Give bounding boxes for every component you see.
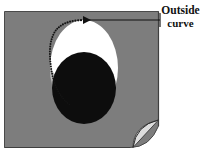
outside-curve-label-line-2: curve bbox=[156, 17, 205, 30]
outside-curve-label-line-1: Outside bbox=[156, 4, 205, 17]
figure-root: Outside curve bbox=[0, 0, 205, 162]
black-oval bbox=[52, 52, 116, 124]
outside-curve-label: Outside curve bbox=[156, 4, 205, 29]
